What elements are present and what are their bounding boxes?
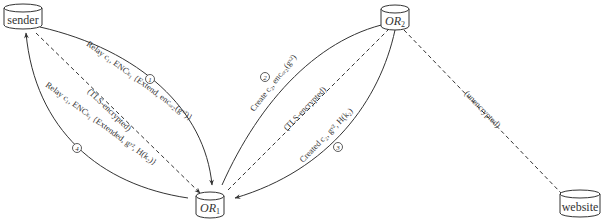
node-website-label: website bbox=[562, 200, 599, 214]
edge-step1 bbox=[40, 27, 212, 185]
node-website: website bbox=[560, 190, 600, 217]
svg-text:3: 3 bbox=[335, 144, 340, 152]
svg-text:2: 2 bbox=[263, 74, 267, 82]
node-or2: OR2 bbox=[381, 5, 409, 30]
edge-label-step1: Relay c₁, ENCₖ₁ {Extend, encₒᵣ₂(gˣ²)} bbox=[85, 39, 195, 123]
svg-text:4: 4 bbox=[75, 145, 79, 153]
step-badge-2: 2 bbox=[261, 73, 270, 82]
edge-label-tls-or1-or2: (TLS-encrypted) bbox=[281, 84, 328, 132]
node-sender: sender bbox=[4, 4, 42, 29]
step-badge-4: 4 bbox=[73, 144, 82, 153]
svg-text:1: 1 bbox=[148, 76, 152, 84]
node-sender-label: sender bbox=[7, 13, 38, 27]
node-or1: OR1 bbox=[196, 192, 224, 218]
step-badge-1: 1 bbox=[146, 75, 155, 84]
circuit-diagram: Relay c₁, ENCₖ₁ {Extend, encₒᵣ₂(gˣ²)} (T… bbox=[0, 0, 603, 223]
edge-label-step2: Create c₂, encₒᵣ₂(gˣ²) bbox=[248, 52, 299, 113]
edge-step3 bbox=[235, 30, 395, 198]
edge-label-unencrypted: (unencrypted) bbox=[463, 88, 503, 129]
edge-label-step4: Relay c₁, ENCₖ₁ {Extended, gʸ², H(k₂)} bbox=[44, 80, 159, 168]
step-badge-3: 3 bbox=[334, 143, 343, 152]
